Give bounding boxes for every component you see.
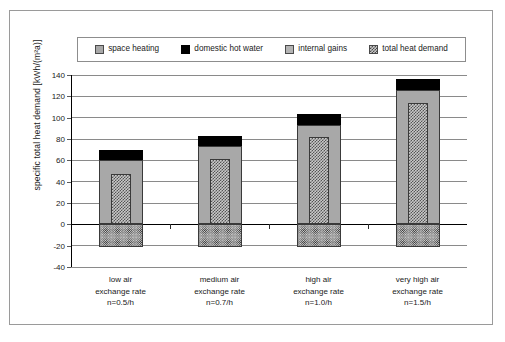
- x-axis-label-line: exchange rate: [170, 286, 269, 298]
- y-tick-mark: [67, 160, 71, 161]
- y-tick-label: 100: [52, 113, 65, 122]
- x-axis-category-label: high airexchange raten=1.0/h: [269, 274, 368, 309]
- gridline: [71, 75, 467, 76]
- bar-segment-internal-gains[interactable]: [297, 224, 341, 246]
- legend-label-domestic-hot-water: domestic hot water: [194, 45, 263, 53]
- bar-segment-internal-gains[interactable]: [396, 224, 440, 246]
- bar-segment-total-heat-demand[interactable]: [111, 174, 131, 224]
- x-axis-label-line: n=1.5/h: [368, 297, 467, 309]
- x-axis-label-line: exchange rate: [71, 286, 170, 298]
- x-axis-category-label: very high airexchange raten=1.5/h: [368, 274, 467, 309]
- y-tick-label: 0: [61, 220, 65, 229]
- internal-gains-swatch-icon: [285, 45, 294, 54]
- x-axis-category-label: low airexchange raten=0.5/h: [71, 274, 170, 309]
- bar-segment-total-heat-demand[interactable]: [210, 159, 230, 224]
- x-axis-label-line: n=0.7/h: [170, 297, 269, 309]
- x-tick-mark: [170, 224, 171, 229]
- domestic-hot-water-swatch-icon: [181, 45, 190, 54]
- y-tick-mark: [67, 96, 71, 97]
- space-heating-swatch-icon: [95, 45, 104, 54]
- legend-item-domestic-hot-water: domestic hot water: [181, 45, 263, 54]
- bar-segment-internal-gains[interactable]: [99, 224, 143, 246]
- y-axis-title: specific total heat demand [kWh/(m²a)]: [32, 15, 42, 215]
- y-tick-label: 60: [56, 156, 65, 165]
- y-tick-mark: [67, 118, 71, 119]
- bar-segment-total-heat-demand[interactable]: [408, 103, 428, 225]
- y-axis-line: [71, 75, 72, 267]
- bar-segment-domestic-hot-water[interactable]: [198, 136, 242, 147]
- x-tick-mark: [269, 224, 270, 229]
- x-axis-label-line: high air: [269, 274, 368, 286]
- plot-area: -40-20020406080100120140: [71, 75, 467, 267]
- chart-figure: space heating domestic hot water interna…: [0, 0, 505, 342]
- y-tick-label: 80: [56, 135, 65, 144]
- x-axis-labels-group: low airexchange raten=0.5/hmedium airexc…: [71, 274, 467, 318]
- y-tick-label: 40: [56, 177, 65, 186]
- y-tick-label: 120: [52, 92, 65, 101]
- plot-wrapper: -40-20020406080100120140: [71, 75, 467, 267]
- legend-label-total-heat-demand: total heat demand: [382, 45, 448, 53]
- bar-segment-internal-gains[interactable]: [198, 224, 242, 246]
- x-axis-label-line: n=1.0/h: [269, 297, 368, 309]
- legend-item-internal-gains: internal gains: [285, 45, 347, 54]
- y-tick-mark: [67, 246, 71, 247]
- gridline: [71, 267, 467, 268]
- y-tick-label: -40: [53, 263, 65, 272]
- x-tick-mark: [368, 224, 369, 229]
- y-tick-mark: [67, 224, 71, 225]
- y-tick-label: 20: [56, 199, 65, 208]
- x-axis-label-line: n=0.5/h: [71, 297, 170, 309]
- x-axis-label-line: exchange rate: [269, 286, 368, 298]
- legend-item-space-heating: space heating: [95, 45, 159, 54]
- y-tick-label: -20: [53, 241, 65, 250]
- y-tick-mark: [67, 182, 71, 183]
- x-axis-label-line: low air: [71, 274, 170, 286]
- legend-item-total-heat-demand: total heat demand: [369, 45, 448, 54]
- y-tick-mark: [67, 267, 71, 268]
- y-tick-mark: [67, 75, 71, 76]
- x-axis-label-line: exchange rate: [368, 286, 467, 298]
- bar-segment-total-heat-demand[interactable]: [309, 137, 329, 224]
- y-tick-mark: [67, 139, 71, 140]
- legend-label-space-heating: space heating: [108, 45, 159, 53]
- x-axis-label-line: medium air: [170, 274, 269, 286]
- total-heat-demand-swatch-icon: [369, 45, 378, 54]
- bar-segment-domestic-hot-water[interactable]: [99, 150, 143, 160]
- legend-label-internal-gains: internal gains: [298, 45, 347, 53]
- x-axis-category-label: medium airexchange raten=0.7/h: [170, 274, 269, 309]
- y-tick-label: 140: [52, 71, 65, 80]
- bar-segment-domestic-hot-water[interactable]: [297, 114, 341, 124]
- x-axis-label-line: very high air: [368, 274, 467, 286]
- y-tick-mark: [67, 203, 71, 204]
- chart-legend: space heating domestic hot water interna…: [77, 37, 466, 62]
- bar-segment-domestic-hot-water[interactable]: [396, 79, 440, 90]
